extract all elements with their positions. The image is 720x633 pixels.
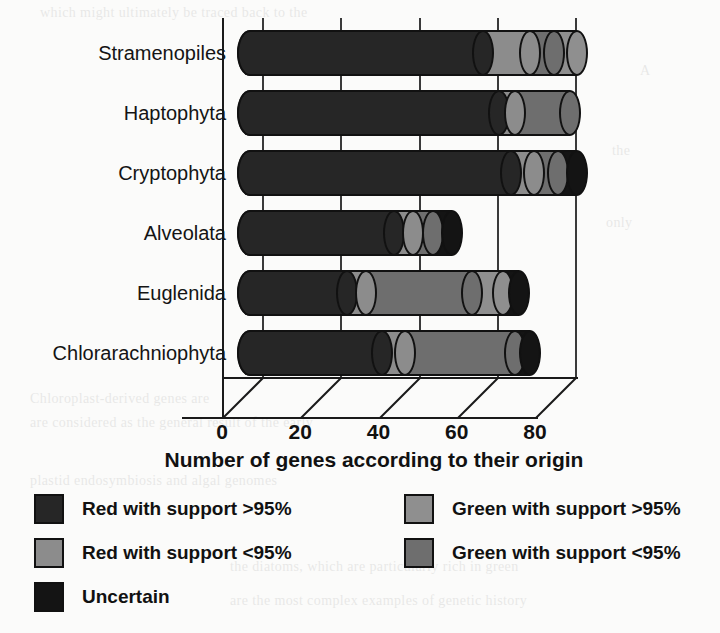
x-tick-label: 60 (445, 420, 468, 444)
floor-front-edge (182, 417, 538, 419)
floor-diagonal-40 (378, 377, 420, 419)
bar-cap-red_high (500, 150, 522, 196)
legend-label: Red with support >95% (82, 498, 292, 520)
x-tick-label: 20 (289, 420, 312, 444)
bar-cap-red_low (402, 210, 424, 256)
legend-swatch-red-low (34, 538, 64, 568)
legend-label: Green with support >95% (452, 498, 681, 520)
bar-segment-red_high (237, 210, 394, 256)
legend-column-right: Green with support >95% Green with suppo… (404, 487, 681, 575)
legend-item[interactable]: Green with support <95% (404, 531, 681, 575)
floor-diagonal-60 (457, 377, 499, 419)
x-axis-title: Number of genes according to their origi… (0, 448, 720, 472)
legend-item[interactable]: Red with support <95% (34, 531, 292, 575)
bar-cap-green_low (566, 30, 588, 76)
bar-segment-red_high (237, 30, 483, 76)
bar-cap-uncertain (508, 270, 530, 316)
category-label-euglenida: Euglenida (6, 282, 226, 305)
bar-cap-green_high (559, 90, 581, 136)
legend-swatch-uncertain (34, 582, 64, 612)
x-tick-label: 0 (216, 420, 228, 444)
legend-swatch-green-low (404, 538, 434, 568)
floor-diagonal-80 (535, 377, 577, 419)
x-tick-label: 40 (367, 420, 390, 444)
floor-back-edge (222, 377, 578, 379)
figure-page: which might ultimately be traced back to… (0, 0, 720, 633)
bar-segment-red_high (237, 90, 499, 136)
legend-label: Red with support <95% (82, 542, 292, 564)
floor-diagonal-20 (300, 377, 342, 419)
bar-cap-uncertain (566, 150, 588, 196)
legend-item[interactable]: Red with support >95% (34, 487, 292, 531)
bar-segment-green_high (366, 270, 472, 316)
bar-segment-red_high (237, 270, 347, 316)
bar-cap-green_high (461, 270, 483, 316)
bar-cap-red_high (371, 330, 393, 376)
legend-item[interactable]: Uncertain (34, 575, 292, 619)
category-label-haptophyta: Haptophyta (6, 102, 226, 125)
bar-cap-green_high (543, 30, 565, 76)
bar-segment-red_high (237, 330, 382, 376)
bar-chart: 020406080 Number of genes according to t… (0, 0, 720, 480)
bar-cap-uncertain (519, 330, 541, 376)
category-label-cryptophyta: Cryptophyta (6, 162, 226, 185)
legend-swatch-red-high (34, 494, 64, 524)
legend-column-left: Red with support >95% Red with support <… (34, 487, 292, 619)
bar-cap-red_low (355, 270, 377, 316)
bar-segment-red_high (237, 150, 511, 196)
legend-swatch-green-high (404, 494, 434, 524)
floor-diagonal-0 (222, 377, 264, 419)
bar-segment-green_high (405, 330, 515, 376)
bar-cap-red_low (504, 90, 526, 136)
bar-cap-uncertain (441, 210, 463, 256)
category-label-stramenopiles: Stramenopiles (6, 42, 226, 65)
legend-label: Green with support <95% (452, 542, 681, 564)
category-label-alveolata: Alveolata (6, 222, 226, 245)
legend-item[interactable]: Green with support >95% (404, 487, 681, 531)
legend: Red with support >95% Red with support <… (0, 487, 720, 633)
x-tick-label: 80 (523, 420, 546, 444)
legend-label: Uncertain (82, 586, 170, 608)
category-label-chlorarachniophyta: Chlorarachniophyta (6, 342, 226, 365)
